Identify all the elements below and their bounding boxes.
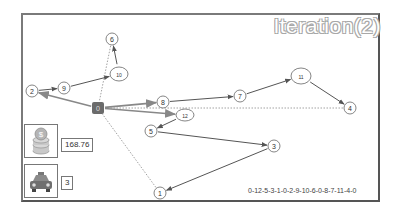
edge-8-7 [170,97,233,102]
vehicles-value: 3 [61,176,73,190]
node-4: 4 [344,102,356,114]
node-3: 3 [268,140,280,152]
edge-0-8 [105,103,156,108]
svg-text:8: 8 [161,99,165,106]
svg-text:3: 3 [272,143,276,150]
node-10: 10 [110,67,128,81]
edge-0-12 [105,109,175,115]
cost-panel: $ [24,124,58,158]
node-6: 6 [106,33,118,45]
edge-0-2 [39,93,91,107]
edge-5-3 [158,132,267,145]
node-8: 8 [157,96,169,108]
svg-text:6: 6 [110,36,114,43]
svg-text:1: 1 [158,190,162,197]
edge-10-6 [113,46,117,64]
node-7: 7 [234,90,246,102]
svg-text:11: 11 [298,74,303,80]
svg-text:10: 10 [116,72,122,78]
node-5: 5 [145,125,157,137]
node-12: 12 [176,109,194,121]
taxi-icon [25,165,57,197]
edge-6-0 [99,46,110,101]
edge-2-9 [39,89,57,91]
edge-12-5 [157,119,176,128]
depot-node: 0 [92,102,104,114]
cost-value: 168.76 [61,138,93,152]
svg-text:$: $ [39,130,44,139]
route-graph: 1234567891011120 [0,0,399,213]
coins-icon: $ [25,125,57,157]
node-1: 1 [154,187,166,199]
svg-text:5: 5 [149,128,153,135]
edge-11-4 [310,82,344,104]
svg-text:0: 0 [96,105,100,112]
node-11: 11 [291,68,311,84]
svg-text:12: 12 [182,113,188,119]
edge-7-11 [247,79,291,93]
edge-1-0 [102,114,156,188]
route-sequence-text: 0-12-5-3-1-0-2-9-10-6-0-8-7-11-4-0 [248,187,356,194]
svg-text:2: 2 [30,88,34,95]
node-2: 2 [26,85,38,97]
svg-text:7: 7 [238,93,242,100]
svg-text:4: 4 [348,105,352,112]
svg-text:9: 9 [62,85,66,92]
vehicles-panel [24,164,58,198]
edge-3-1 [166,149,267,191]
node-9: 9 [58,82,70,94]
route-nodes: 1234567891011120 [26,33,356,199]
